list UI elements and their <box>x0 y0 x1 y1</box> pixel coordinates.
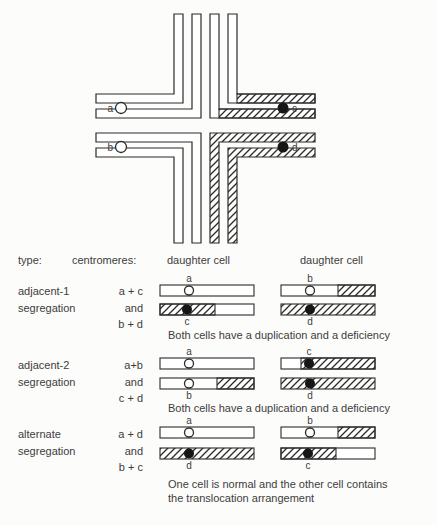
row3-type-line2: segregation <box>18 445 76 457</box>
row2-caption: Both cells have a duplication and a defi… <box>168 402 390 414</box>
chromosome-bar-a: a <box>160 346 254 369</box>
bar-label: d <box>307 390 313 401</box>
chromatid-c-outer-hatched-arm <box>237 94 315 103</box>
centromere-b-label: b <box>107 142 113 153</box>
row2-type-line2: segregation <box>18 376 76 388</box>
bar-label: c <box>185 316 190 327</box>
chromatid-strip-b-outer <box>96 148 183 243</box>
row3-caption-line2: the translocation arrangement <box>168 492 314 504</box>
centromere-d <box>278 142 289 153</box>
row3-centromeres-line1: a + d <box>118 428 143 440</box>
chromatid-c-inner-hatched-arm <box>219 109 315 118</box>
header-daughter-cell-2: daughter cell <box>300 254 363 266</box>
chromosome-bar-c: c <box>281 448 375 471</box>
bar-label: b <box>307 273 313 284</box>
row-alternate: alternate segregation a + d and b + c a … <box>18 415 388 504</box>
bar-label: d <box>307 316 313 327</box>
row1-caption: Both cells have a duplication and a defi… <box>168 329 390 341</box>
chromatid-strip-d-outer <box>228 148 315 243</box>
centromere-a <box>116 103 127 114</box>
bar-label: b <box>186 390 192 401</box>
row2-daughter2: c d <box>281 346 375 401</box>
bar-label: c <box>307 346 312 357</box>
row3-centromeres-line3: b + c <box>119 461 144 473</box>
chromosome-bar-d: d <box>281 378 375 401</box>
bar-label: a <box>186 346 192 357</box>
header-centromeres: centromeres: <box>72 254 136 266</box>
row1-daughter2: b d <box>281 273 375 327</box>
segregation-table-header: type: centromeres: daughter cell daughte… <box>18 254 363 266</box>
chromosome-bar-d: d <box>160 448 254 471</box>
row3-type-line1: alternate <box>18 428 61 440</box>
bar-label: a <box>186 415 192 426</box>
chromosome-bar-a: a <box>160 415 254 438</box>
row2-daughter1: a b <box>160 346 254 401</box>
row3-caption-line1: One cell is normal and the other cell co… <box>168 478 388 490</box>
chromosome-bar-b: b <box>281 415 375 438</box>
chromosome-bar-d: d <box>281 304 375 327</box>
bar-label: a <box>186 273 192 284</box>
row-adjacent-1: adjacent-1 segregation a + c and b + d a… <box>18 273 390 341</box>
centromere-c <box>278 103 289 114</box>
row1-centromeres-line3: b + d <box>118 318 143 330</box>
row1-centromeres-line1: a + c <box>119 285 144 297</box>
bar-label: d <box>186 460 192 471</box>
row3-daughter1: a d <box>160 415 254 471</box>
translocation-segregation-figure: a b c d type: centromeres: daughter cell… <box>0 0 437 525</box>
centromere-c-label: c <box>292 103 297 114</box>
row1-type-line1: adjacent-1 <box>18 285 69 297</box>
row1-centromeres-line2: and <box>125 302 143 314</box>
pachytene-cross-figure: a b c d <box>96 14 315 243</box>
centromere-d-label: d <box>292 142 298 153</box>
row2-centromeres-line3: c + d <box>119 392 143 404</box>
header-type: type: <box>18 254 42 266</box>
chromosome-bar-c: c <box>281 346 375 369</box>
row3-daughter2: b c <box>281 415 375 471</box>
centromere-a-label: a <box>107 103 113 114</box>
header-daughter-cell-1: daughter cell <box>167 254 230 266</box>
bar-label: c <box>306 460 311 471</box>
bar-label: b <box>307 415 313 426</box>
row2-centromeres-line1: a+b <box>124 359 143 371</box>
row3-centromeres-line2: and <box>125 445 143 457</box>
centromere-b <box>116 142 127 153</box>
row1-daughter1: a c <box>160 273 254 327</box>
chromosome-bar-a: a <box>160 273 254 296</box>
chromosome-bar-b: b <box>281 273 375 296</box>
chromosome-bar-c: c <box>160 304 254 327</box>
row2-centromeres-line2: and <box>125 376 143 388</box>
chromatid-strip-a-outer <box>96 14 183 103</box>
chromosome-bar-b: b <box>160 378 254 401</box>
row1-type-line2: segregation <box>18 302 76 314</box>
row2-type-line1: adjacent-2 <box>18 359 69 371</box>
row-adjacent-2: adjacent-2 segregation a+b and c + d a b… <box>18 346 390 414</box>
chromatid-strip-c-outer <box>228 14 315 103</box>
